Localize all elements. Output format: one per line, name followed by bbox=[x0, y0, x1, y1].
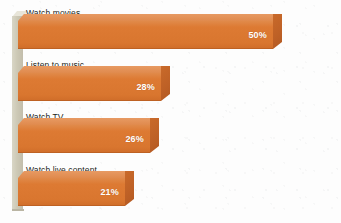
bar-side-face bbox=[150, 118, 159, 153]
bar-front-face: 28% bbox=[18, 73, 161, 101]
bar: 26% bbox=[18, 125, 150, 153]
axis-baseline bbox=[12, 209, 24, 211]
bar: 28% bbox=[18, 73, 161, 101]
bar-side-face bbox=[273, 14, 282, 49]
bar-chart: Watch movies50%Listen to music28%Watch T… bbox=[0, 0, 341, 223]
bar: 21% bbox=[18, 178, 125, 206]
bar-front-face: 21% bbox=[18, 178, 125, 206]
bar-front-face: 50% bbox=[18, 21, 273, 49]
bar-value-label: 50% bbox=[248, 30, 267, 40]
bar-side-face bbox=[161, 66, 170, 101]
bar-top-face bbox=[18, 14, 279, 21]
bar-value-label: 21% bbox=[100, 187, 119, 197]
bar-value-label: 28% bbox=[136, 82, 155, 92]
bar-top-face bbox=[18, 118, 156, 125]
bar-value-label: 26% bbox=[125, 134, 144, 144]
bar-top-face bbox=[18, 66, 167, 73]
bar-side-face bbox=[125, 171, 134, 206]
bar-front-face: 26% bbox=[18, 125, 150, 153]
bar-top-face bbox=[18, 171, 131, 178]
bar: 50% bbox=[18, 21, 273, 49]
